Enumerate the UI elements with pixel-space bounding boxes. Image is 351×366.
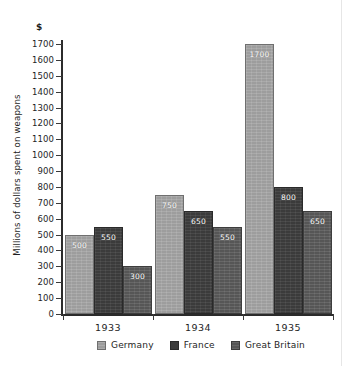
y-axis-tick [56,250,62,251]
y-axis-tick-label: 1500 [2,71,54,81]
legend-swatch-icon [231,341,240,350]
legend-item-great-britain[interactable]: Great Britain [231,340,305,350]
y-axis-tick [56,282,62,283]
y-axis-line [61,40,63,316]
y-axis-tick [56,235,62,236]
y-axis-tick-label: 1700 [2,39,54,49]
bar-germany-1935: 1700 [245,44,274,314]
page-edge-line [341,0,342,366]
y-axis-tick-label: 500 [2,230,54,240]
bar-value-label: 1700 [246,50,273,59]
x-axis-tick [63,314,64,320]
y-axis-tick [56,187,62,188]
legend-swatch-icon [170,341,179,350]
bar-value-label: 650 [304,217,331,226]
bar-great-britain-1934: 550 [213,227,242,314]
x-axis-label-1933: 1933 [95,322,121,333]
y-axis-tick-label: 1400 [2,87,54,97]
x-axis-label-1934: 1934 [185,322,211,333]
y-axis-tick [56,171,62,172]
bar-value-label: 300 [124,272,151,281]
y-axis-tick-label: 1600 [2,55,54,65]
y-axis-tick-label: 300 [2,261,54,271]
y-axis-tick [56,60,62,61]
y-axis-tick-label: 600 [2,214,54,224]
bar-germany-1934: 750 [155,195,184,314]
bar-france-1935: 800 [274,187,303,314]
chart-legend: GermanyFranceGreat Britain [61,340,341,350]
y-axis-tick [56,92,62,93]
x-axis-label-1935: 1935 [275,322,301,333]
bar-france-1933: 550 [94,227,123,314]
y-axis-tick [56,44,62,45]
bar-value-label: 750 [156,201,183,210]
y-axis-tick [56,139,62,140]
bar-value-label: 800 [275,193,302,202]
y-axis-tick-label: 1000 [2,150,54,160]
y-axis-tick [56,298,62,299]
legend-label: Germany [111,340,154,350]
legend-swatch-icon [97,341,106,350]
bar-great-britain-1935: 650 [303,211,332,314]
legend-label: Great Britain [245,340,305,350]
legend-label: France [184,340,215,350]
y-axis-tick-label: 800 [2,182,54,192]
bar-great-britain-1933: 300 [123,266,152,314]
bar-germany-1933: 500 [65,235,94,314]
y-axis-unit-symbol: $ [36,22,42,32]
y-axis-tick-label: 1100 [2,134,54,144]
y-axis-tick-label: 400 [2,245,54,255]
y-axis-tick [56,108,62,109]
y-axis-tick [56,123,62,124]
bar-value-label: 550 [95,233,122,242]
y-axis-tick-label: 200 [2,277,54,287]
x-axis-line [61,314,333,316]
bar-chart: $ Millions of dollars spent on weapons 0… [0,0,351,366]
y-axis-tick [56,203,62,204]
y-axis-tick-label: 1300 [2,103,54,113]
x-axis-tick [243,314,244,320]
y-axis-tick-label: 0 [2,309,54,319]
bar-value-label: 650 [185,217,212,226]
y-axis-tick-label: 700 [2,198,54,208]
y-axis-tick-label: 1200 [2,118,54,128]
x-axis-tick [333,314,334,320]
y-axis-tick [56,219,62,220]
bar-france-1934: 650 [184,211,213,314]
y-axis-tick-label: 100 [2,293,54,303]
y-axis-tick-label: 900 [2,166,54,176]
bar-value-label: 500 [66,241,93,250]
bar-value-label: 550 [214,233,241,242]
x-axis-tick [153,314,154,320]
y-axis-tick [56,155,62,156]
y-axis-tick [56,314,62,315]
legend-item-germany[interactable]: Germany [97,340,154,350]
legend-item-france[interactable]: France [170,340,215,350]
y-axis-tick [56,76,62,77]
y-axis-tick [56,266,62,267]
